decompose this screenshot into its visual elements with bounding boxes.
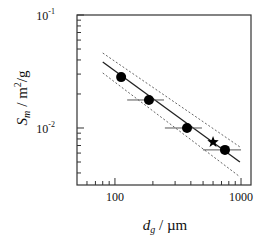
y-tick-label: 10-1 [36,7,55,23]
data-point [144,95,154,105]
y-axis-label: Sm/ m2/g [12,70,32,125]
x-axis-label: dg / µm [143,217,188,235]
x-tick-label: 100 [106,190,124,204]
data-point [220,145,230,155]
confidence-line [103,53,240,147]
x-tick-label: 1000 [229,190,253,204]
data-point [182,123,192,133]
tick-labels: 100100010-110-2 [36,7,253,204]
data-point [116,72,126,82]
y-tick-label: 10-2 [36,120,55,136]
confidence-line [103,73,240,177]
chart: 100100010-110-2 dg / µm Sm/ m2/g [0,0,267,250]
fit-lines [103,53,240,177]
